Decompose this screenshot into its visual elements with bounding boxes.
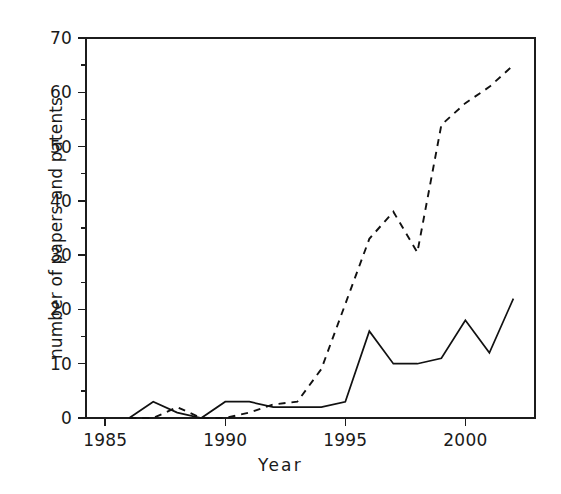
axes-group [86,38,535,418]
tick-marks-group [78,38,465,426]
axis-frame [86,38,535,418]
y-tick-label: 70 [30,28,72,48]
y-tick-label: 0 [30,408,72,428]
data-series-group [129,65,513,418]
x-tick-label: 2000 [443,430,487,450]
series-line-papers [129,299,513,418]
x-tick-label: 1985 [83,430,127,450]
x-tick-label: 1995 [323,430,367,450]
y-axis-title: number of papers and patents [46,78,66,378]
series-line-patents [129,65,513,418]
x-tick-label: 1990 [203,430,247,450]
x-axis-title: Year [0,455,561,475]
chart-container: 010203040506070 1985199019952000 Year nu… [0,0,561,494]
chart-plot-area [0,0,561,494]
